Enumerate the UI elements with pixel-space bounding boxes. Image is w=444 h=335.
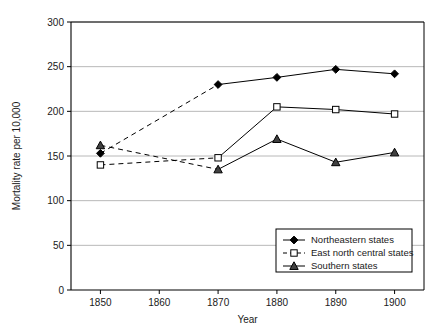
series-segment <box>277 107 336 110</box>
series-segment <box>100 85 218 154</box>
x-tick-label: 1870 <box>207 297 230 308</box>
data-point <box>215 155 221 161</box>
data-point <box>391 111 397 117</box>
series-segment <box>218 107 277 158</box>
data-point <box>391 70 399 78</box>
data-point <box>273 73 281 81</box>
x-tick-label: 1850 <box>89 297 112 308</box>
legend-label-0: Northeastern states <box>311 234 394 245</box>
series-segment <box>336 152 395 162</box>
series-2 <box>96 135 399 173</box>
series-segment <box>336 69 395 73</box>
x-tick-label: 1890 <box>325 297 348 308</box>
data-point <box>97 162 103 168</box>
series-segment <box>277 139 336 162</box>
legend-label-2: Southern states <box>311 260 378 271</box>
series-segment <box>100 145 218 169</box>
series-segment <box>277 69 336 77</box>
data-point <box>333 106 339 112</box>
series-1 <box>97 104 398 168</box>
y-tick-label: 200 <box>47 106 64 117</box>
x-axis-title: Year <box>237 314 258 325</box>
y-tick-label: 150 <box>47 151 64 162</box>
x-tick-label: 1860 <box>148 297 171 308</box>
y-tick-label: 100 <box>47 195 64 206</box>
y-tick-label: 0 <box>58 285 64 296</box>
data-point <box>390 148 398 156</box>
x-tick-label: 1880 <box>266 297 289 308</box>
data-point <box>273 135 281 143</box>
legend-label-1: East north central states <box>311 247 414 258</box>
data-point <box>96 141 104 149</box>
series-segment <box>218 139 277 169</box>
y-tick-label: 250 <box>47 61 64 72</box>
mortality-rate-line-chart: 0501001502002503001850186018701880189019… <box>0 0 444 335</box>
y-axis-title: Mortality rate per 10,000 <box>11 101 22 210</box>
x-tick-label: 1900 <box>383 297 406 308</box>
y-tick-label: 300 <box>47 17 64 28</box>
y-tick-label: 50 <box>53 240 65 251</box>
data-point <box>214 81 222 89</box>
data-point <box>274 104 280 110</box>
series-segment <box>218 77 277 84</box>
series-segment <box>100 158 218 165</box>
chart-container: 0501001502002503001850186018701880189019… <box>0 0 444 335</box>
legend-marker-1 <box>291 250 297 256</box>
